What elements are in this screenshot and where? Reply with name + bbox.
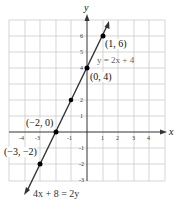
y-tick: 2 — [80, 97, 83, 103]
y-tick: -1 — [79, 145, 84, 151]
y-axis — [85, 14, 90, 181]
x-tick: 2 — [116, 135, 119, 141]
y-tick: 4 — [80, 65, 83, 71]
point-label: (1, 6) — [105, 39, 127, 49]
point-neg1-2 — [69, 98, 74, 103]
x-tick: 4 — [147, 135, 150, 141]
point-neg2-0 — [54, 130, 59, 135]
graphed-line — [24, 21, 110, 195]
y-axis-label: y — [84, 3, 88, 13]
point-0-4 — [85, 66, 90, 71]
y-tick: 1 — [80, 113, 83, 119]
equation-standard: 4x + 8 = 2y — [33, 189, 79, 199]
x-axis — [9, 130, 167, 135]
equation-slope-intercept: y = 2x + 4 — [97, 56, 134, 65]
point-neg3-neg2 — [38, 162, 43, 167]
x-tick: -3 — [35, 135, 40, 141]
point-label: (−3, −2) — [4, 147, 37, 157]
graph-canvas — [0, 0, 178, 211]
point-label: (0, 4) — [90, 72, 112, 82]
x-tick: 1 — [101, 135, 104, 141]
line-arrow-up-icon — [105, 21, 110, 29]
y-tick: -3 — [79, 177, 84, 183]
x-axis-arrow-icon — [160, 130, 167, 135]
x-tick: 3 — [132, 135, 135, 141]
y-tick: 5 — [80, 49, 83, 55]
x-axis-label: x — [169, 127, 173, 137]
y-axis-arrow-icon — [85, 14, 90, 21]
y-tick: -2 — [79, 161, 84, 167]
x-tick: -1 — [67, 135, 72, 141]
y-tick: 6 — [80, 33, 83, 39]
point-label: (−2, 0) — [26, 118, 53, 128]
x-tick: -4 — [19, 135, 24, 141]
